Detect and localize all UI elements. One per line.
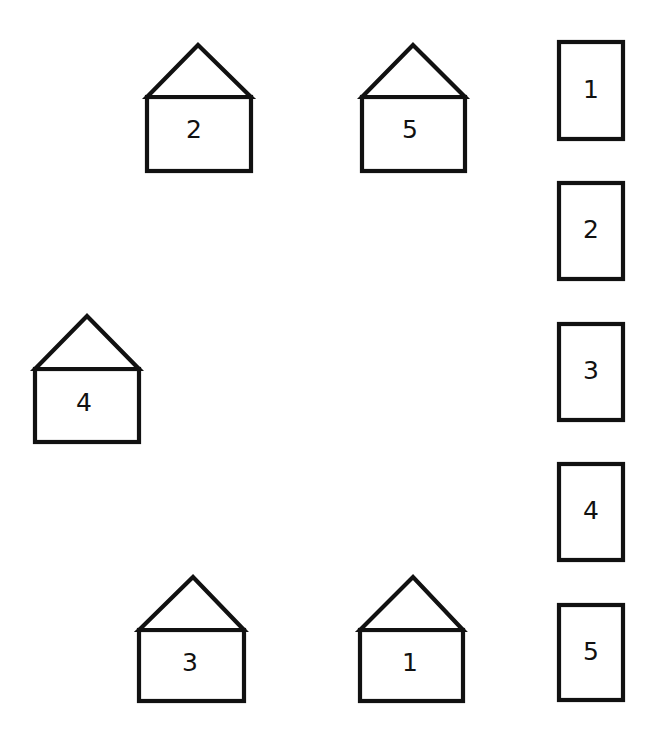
house-3[interactable]: 3 (139, 577, 244, 701)
house-label-5: 5 (402, 115, 418, 144)
house-4[interactable]: 4 (35, 316, 139, 442)
house-2[interactable]: 2 (147, 45, 251, 171)
house-label-1: 1 (402, 648, 418, 677)
house-1[interactable]: 1 (360, 577, 463, 701)
diagram-canvas: 25431 12345 (0, 0, 656, 735)
card-label-3: 3 (583, 356, 599, 385)
house-roof-3 (139, 577, 244, 630)
card-2[interactable]: 2 (559, 183, 623, 279)
houses-group: 25431 (35, 45, 465, 701)
house-roof-2 (147, 45, 251, 97)
card-label-2: 2 (583, 215, 599, 244)
cards-group: 12345 (559, 42, 623, 700)
card-label-4: 4 (583, 496, 599, 525)
house-5[interactable]: 5 (362, 45, 465, 171)
card-3[interactable]: 3 (559, 324, 623, 420)
house-roof-5 (362, 45, 465, 97)
house-label-2: 2 (186, 115, 202, 144)
house-roof-4 (35, 316, 139, 369)
house-roof-1 (360, 577, 463, 630)
card-1[interactable]: 1 (559, 42, 623, 139)
card-label-5: 5 (583, 637, 599, 666)
house-label-4: 4 (76, 388, 92, 417)
house-label-3: 3 (182, 648, 198, 677)
card-5[interactable]: 5 (559, 605, 623, 700)
diagram-svg: 25431 12345 (0, 0, 656, 735)
card-4[interactable]: 4 (559, 464, 623, 560)
card-label-1: 1 (583, 75, 599, 104)
